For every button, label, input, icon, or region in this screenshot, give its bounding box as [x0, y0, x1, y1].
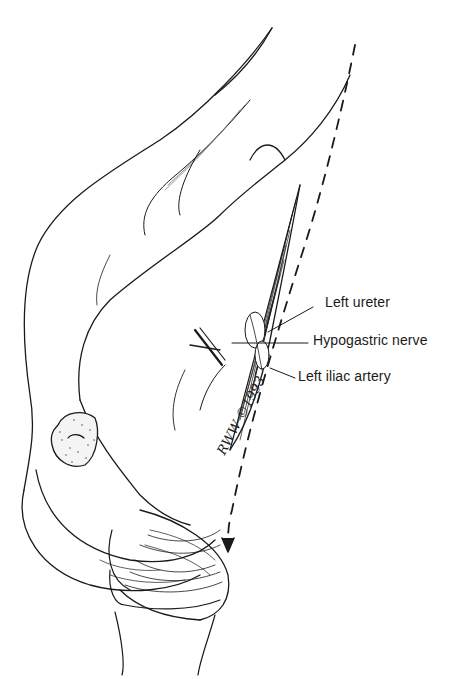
leader-left-iliac-artery	[270, 368, 295, 378]
label-left-ureter: Left ureter	[325, 294, 390, 310]
label-hypogastric-nerve: Hypogastric nerve	[313, 332, 428, 348]
label-left-iliac-artery: Left iliac artery	[298, 368, 391, 384]
colon-stump	[51, 413, 97, 467]
